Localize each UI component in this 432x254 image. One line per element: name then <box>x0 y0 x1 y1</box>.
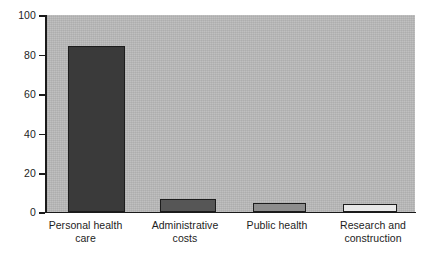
plot-area <box>46 15 415 212</box>
y-axis-line <box>45 15 47 213</box>
y-tick-mark-100 <box>39 15 45 17</box>
category-label-line1: Personal health <box>35 219 136 232</box>
bar-personal-health-care <box>68 46 125 212</box>
y-tick-mark-40 <box>39 134 45 136</box>
category-label-line1: Public health <box>227 219 327 232</box>
category-label-line1: Administrative <box>133 219 237 232</box>
category-label-line2: construction <box>320 232 426 245</box>
category-label-line1: Research and <box>320 219 426 232</box>
category-label-line2: care <box>35 232 136 245</box>
y-tick-mark-0 <box>39 212 45 214</box>
bar-administrative-costs <box>160 199 216 212</box>
y-tick-mark-80 <box>39 55 45 57</box>
x-category-label-research-and-construction: Research and construction <box>320 219 426 244</box>
y-tick-label-20: 20 <box>24 168 36 179</box>
y-tick-label-0: 0 <box>30 207 36 218</box>
x-category-label-public-health: Public health <box>227 219 327 232</box>
y-tick-label-40: 40 <box>24 129 36 140</box>
y-tick-label-60: 60 <box>24 89 36 100</box>
y-tick-mark-20 <box>39 173 45 175</box>
x-category-label-administrative-costs: Administrative costs <box>133 219 237 244</box>
y-tick-label-100: 100 <box>18 10 36 21</box>
category-label-line2: costs <box>133 232 237 245</box>
y-tick-label-80: 80 <box>24 50 36 61</box>
bar-chart-figure: 100 80 60 40 20 0 Personal health care A… <box>0 0 432 254</box>
y-tick-mark-60 <box>39 94 45 96</box>
x-axis-line <box>45 212 416 214</box>
x-category-label-personal-health-care: Personal health care <box>35 219 136 244</box>
